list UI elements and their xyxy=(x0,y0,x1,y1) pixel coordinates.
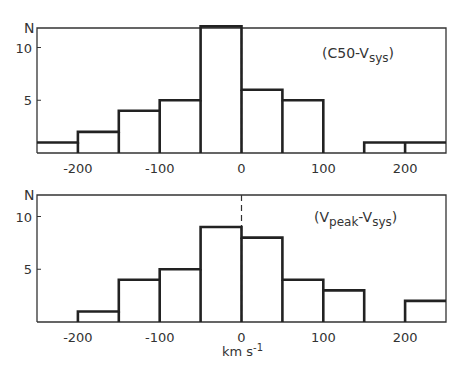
y-tick-label: 5 xyxy=(24,93,32,108)
y-axis-label-n: N xyxy=(24,187,34,203)
x-tick-label: 0 xyxy=(237,330,245,345)
x-tick-label: 0 xyxy=(237,161,245,176)
panel-label: (C50-Vsys) xyxy=(322,45,394,65)
histogram-figure: 510N-200-1000100200(C50-Vsys)510N-200-10… xyxy=(0,0,468,372)
histogram-steps xyxy=(78,227,446,322)
histogram-panel-1: 510N-200-1000100200(C50-Vsys) xyxy=(15,20,446,176)
histogram-panel-2: 510N-200-1000100200(Vpeak-Vsys) xyxy=(15,187,446,345)
x-tick-label: 200 xyxy=(393,330,418,345)
x-tick-label: -100 xyxy=(145,161,175,176)
y-tick-label: 10 xyxy=(15,41,32,56)
x-tick-label: -200 xyxy=(63,161,93,176)
x-tick-label: -100 xyxy=(145,330,175,345)
y-tick-label: 10 xyxy=(15,210,32,225)
x-tick-label: -200 xyxy=(63,330,93,345)
y-axis-label-n: N xyxy=(24,20,34,36)
x-tick-label: 100 xyxy=(311,330,336,345)
x-tick-label: 100 xyxy=(311,161,336,176)
x-axis-label: km s-1 xyxy=(222,342,263,359)
y-tick-label: 5 xyxy=(24,262,32,277)
panel-label: (Vpeak-Vsys) xyxy=(314,209,397,229)
x-tick-label: 200 xyxy=(393,161,418,176)
